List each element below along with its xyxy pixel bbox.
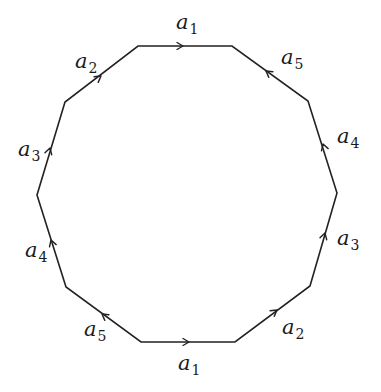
label-base: a [25,238,38,262]
label-index: 1 [190,21,199,37]
label-base: a [178,351,191,375]
edge-label-bottom-left-a5: a5 [84,319,106,343]
label-base: a [282,315,295,339]
edge-label-top-a1: a1 [176,12,198,36]
edge-label-left-lower-a4: a4 [25,240,47,264]
label-index: 5 [98,328,107,344]
label-index: 3 [351,237,360,253]
edge-label-top-right-a5: a5 [281,47,303,71]
edge-label-right-lower-a3: a3 [337,228,359,252]
label-base: a [337,124,350,148]
edge-label-top-left-a2: a2 [75,51,97,75]
label-base: a [18,137,31,161]
edge-label-bottom-right-a2: a2 [282,317,304,341]
label-index: 2 [89,60,98,76]
decagon-diagram [0,0,381,392]
edge-label-left-upper-a3: a3 [18,139,40,163]
label-index: 4 [39,249,48,265]
label-index: 4 [351,135,360,151]
label-base: a [281,45,294,69]
label-index: 2 [296,326,305,342]
edge-label-bottom-a1: a1 [178,353,200,377]
label-index: 5 [295,56,304,72]
edge-label-right-upper-a4: a4 [337,126,359,150]
label-base: a [84,317,97,341]
label-base: a [176,10,189,34]
label-index: 3 [32,148,41,164]
label-base: a [75,49,88,73]
label-index: 1 [192,362,201,378]
label-base: a [337,226,350,250]
decagon-outline [37,46,337,342]
